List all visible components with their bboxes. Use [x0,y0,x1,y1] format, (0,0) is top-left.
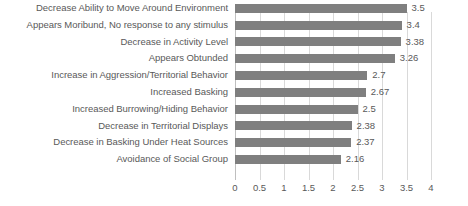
bar-track: 2.67 [235,84,431,101]
x-axis: 00.511.522.533.54 [235,180,431,200]
bar-row: Decrease in Activity Level3.38 [0,34,468,51]
bar-value-label: 2.5 [363,101,376,118]
category-label: Increased Burrowing/Hiding Behavior [0,101,228,118]
bar-track: 3.38 [235,34,431,51]
x-tick-label: 3.5 [400,182,413,193]
bar [235,105,358,114]
category-label: Increased Basking [0,84,228,101]
bar-row: Avoidance of Social Group2.16 [0,151,468,168]
category-label: Decrease in Activity Level [0,34,228,51]
bar-value-label: 2.67 [371,84,390,101]
bar-value-label: 2.37 [356,134,375,151]
x-tick-label: 0.5 [253,182,266,193]
category-label: Appears Moribund, No response to any sti… [0,17,228,34]
x-tick-label: 3 [379,182,384,193]
bar-track: 2.7 [235,67,431,84]
bar-value-label: 2.16 [346,151,365,168]
bar [235,138,351,147]
bar-value-label: 3.26 [400,50,419,67]
bar-value-label: 3.4 [407,17,420,34]
bar-track: 2.16 [235,151,431,168]
horizontal-bar-chart: Decrease Ability to Move Around Environm… [0,0,468,206]
bar-row: Increase in Aggression/Territorial Behav… [0,67,468,84]
bar [235,37,401,46]
bar [235,21,402,30]
category-label: Decrease in Basking Under Heat Sources [0,134,228,151]
x-tick-label: 1.5 [302,182,315,193]
bar-track: 2.37 [235,134,431,151]
x-tick-label: 4 [428,182,433,193]
bar-row: Increased Burrowing/Hiding Behavior2.5 [0,101,468,118]
bar-row: Decrease in Basking Under Heat Sources2.… [0,134,468,151]
bar-row: Decrease in Territorial Displays2.38 [0,118,468,135]
bar-track: 2.5 [235,101,431,118]
bar [235,155,341,164]
bar [235,88,366,97]
bar [235,71,367,80]
x-tick-label: 2 [330,182,335,193]
bar [235,4,407,13]
bar [235,121,352,130]
bar-track: 3.4 [235,17,431,34]
category-label: Decrease Ability to Move Around Environm… [0,0,228,17]
bar-value-label: 2.38 [357,118,376,135]
bar-track: 2.38 [235,118,431,135]
bar-value-label: 3.5 [412,0,425,17]
bar-value-label: 2.7 [372,67,385,84]
bar-value-label: 3.38 [406,34,425,51]
x-tick-label: 1 [281,182,286,193]
x-tick-label: 2.5 [351,182,364,193]
category-label: Avoidance of Social Group [0,151,228,168]
category-label: Decrease in Territorial Displays [0,118,228,135]
bar-row: Appears Moribund, No response to any sti… [0,17,468,34]
bar-row: Increased Basking2.67 [0,84,468,101]
bar-track: 3.26 [235,50,431,67]
bar-track: 3.5 [235,0,431,17]
bar-row: Decrease Ability to Move Around Environm… [0,0,468,17]
category-label: Appears Obtunded [0,50,228,67]
category-label: Increase in Aggression/Territorial Behav… [0,67,228,84]
bar [235,54,395,63]
bar-rows: Decrease Ability to Move Around Environm… [0,0,468,168]
x-tick-label: 0 [232,182,237,193]
bar-row: Appears Obtunded3.26 [0,50,468,67]
